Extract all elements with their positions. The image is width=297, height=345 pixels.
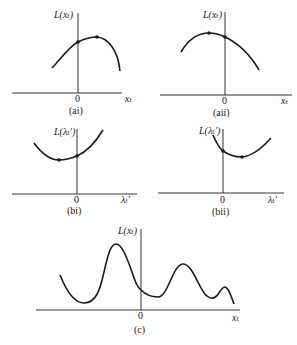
x-axis-label: xₜ xyxy=(280,95,288,106)
minimum-point xyxy=(57,158,61,162)
panel-bi: L(λₜ′) 0 λₜ′ (bi) xyxy=(12,126,137,217)
panel-caption: (c) xyxy=(134,324,145,336)
panel-caption: (ai) xyxy=(69,105,83,117)
x-axis-label: λₜ′ xyxy=(267,194,278,205)
y-axis-label: L(xₜ) xyxy=(202,9,223,21)
x-axis-label: xₜ xyxy=(124,93,132,104)
panel-ai: L(xₜ) 0 xₜ (ai) xyxy=(12,9,132,117)
maximum-point xyxy=(207,31,211,35)
x-axis-label: λₜ′ xyxy=(120,194,131,205)
y-axis-label: L(λₜ′) xyxy=(198,125,221,137)
x-axis-label: xₜ xyxy=(231,312,239,323)
origin-point xyxy=(76,40,80,44)
panel-caption: (bii) xyxy=(212,206,229,218)
likelihood-curve xyxy=(60,244,234,304)
origin-point xyxy=(221,149,225,153)
likelihood-curve xyxy=(181,33,259,70)
panel-caption: (aii) xyxy=(213,107,230,119)
origin-label: 0 xyxy=(222,95,227,106)
panel-aii: L(xₜ) 0 xₜ (aii) xyxy=(160,9,292,119)
origin-point xyxy=(75,154,79,158)
y-axis-label: L(xₜ) xyxy=(117,225,138,237)
y-axis-label: L(λₜ′) xyxy=(53,126,76,138)
maximum-point xyxy=(95,35,99,39)
panel-bii: L(λₜ′) 0 λₜ′ (bii) xyxy=(158,125,284,218)
origin-label: 0 xyxy=(220,194,225,205)
likelihood-curve xyxy=(52,37,120,71)
origin-point xyxy=(223,35,227,39)
likelihood-curve xyxy=(213,135,271,157)
origin-label: 0 xyxy=(138,310,143,321)
panel-c: L(xₜ) 0 xₜ (c) xyxy=(36,225,240,336)
origin-label: 0 xyxy=(74,194,79,205)
panel-caption: (bi) xyxy=(67,205,81,217)
y-axis-label: L(xₜ) xyxy=(53,9,74,21)
figure-canvas: L(xₜ) 0 xₜ (ai) L(xₜ) 0 xₜ (aii) L(λₜ′) … xyxy=(0,0,297,345)
minimum-point xyxy=(240,155,244,159)
origin-label: 0 xyxy=(75,93,80,104)
